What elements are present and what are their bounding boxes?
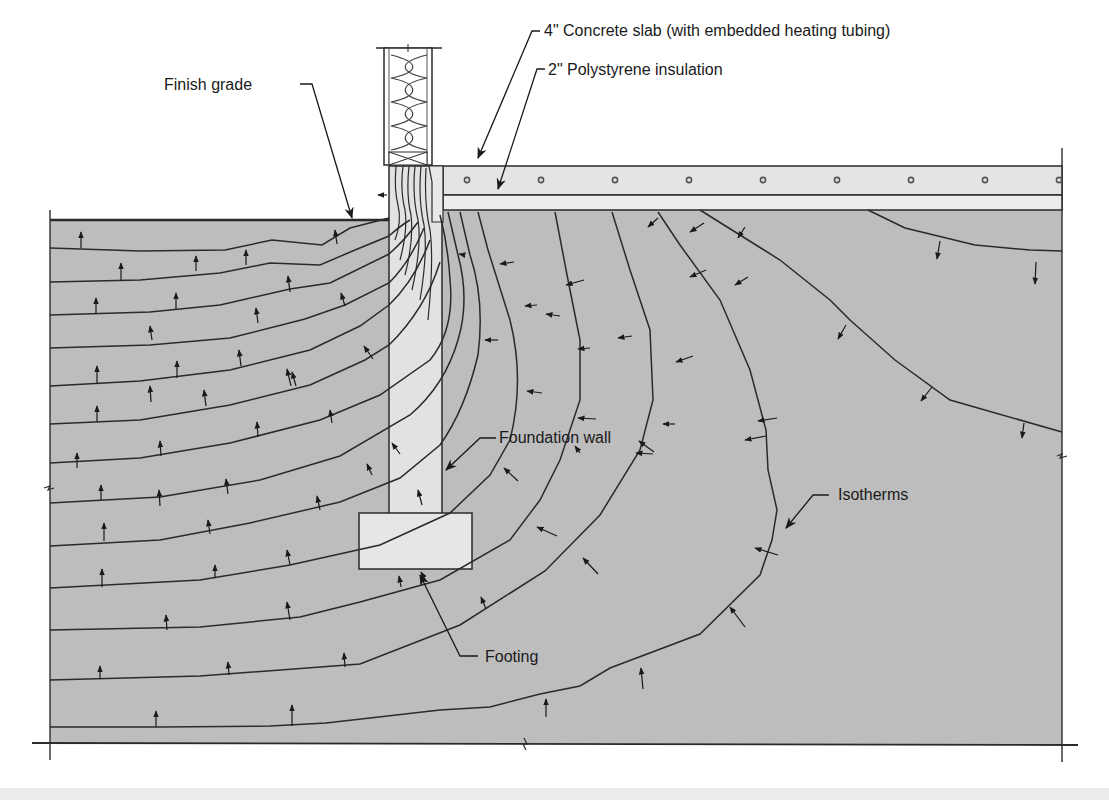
- wall-framing: [376, 44, 442, 165]
- footing-label: Footing: [485, 648, 538, 666]
- concrete-slab-label: 4" Concrete slab (with embedded heating …: [544, 22, 890, 40]
- bottom-band: [0, 788, 1109, 800]
- diagram-canvas: [0, 0, 1109, 800]
- soil: [50, 208, 1062, 744]
- concrete-slab-leader: [478, 31, 540, 158]
- polystyrene-insulation: [443, 195, 1062, 210]
- concrete-slab: [443, 166, 1062, 195]
- finish-grade-label: Finish grade: [164, 76, 252, 94]
- foundation-wall-label: Foundation wall: [499, 429, 611, 447]
- foundation-heat-flow-diagram: 4" Concrete slab (with embedded heating …: [0, 0, 1109, 800]
- footing: [359, 513, 472, 569]
- isotherms-label: Isotherms: [838, 486, 908, 504]
- polystyrene-label: 2" Polystyrene insulation: [548, 61, 723, 79]
- finish-grade-leader: [300, 84, 352, 218]
